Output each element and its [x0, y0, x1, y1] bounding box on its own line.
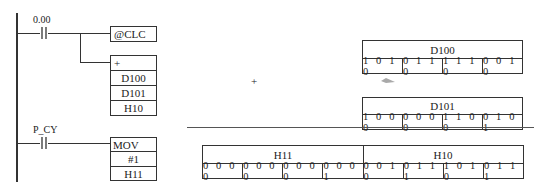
bit-nibble: 0 0 0 1 [323, 163, 363, 178]
sum-divider-line [187, 127, 534, 128]
add-operand-3[interactable]: H10 [110, 100, 157, 116]
rung1-branch-horizontal [80, 62, 110, 63]
contact-label-p-cy: P_CY [33, 124, 57, 135]
rung2-wire-right [48, 143, 110, 144]
bit-nibble: 1 0 1 0 [363, 58, 403, 73]
rung1-wire-left [17, 33, 40, 34]
no-contact-0-00-icon[interactable] [40, 27, 48, 39]
instruction-mov[interactable]: MOV [110, 137, 157, 152]
register-result-h11-h10: H11 H10 0 0 0 0 0 0 0 0 0 0 0 0 0 0 0 1 … [202, 145, 524, 179]
no-contact-p-cy-icon[interactable] [40, 137, 48, 149]
bit-nibble: 0 0 1 0 [483, 58, 522, 73]
mov-operand-source-label: #1 [128, 153, 139, 165]
mov-operand-source[interactable]: #1 [110, 151, 157, 167]
rung2-wire-left [17, 143, 40, 144]
add-operand-2-label: D101 [121, 87, 145, 99]
register-d101: D101 1 0 0 0 0 0 0 0 1 1 0 0 0 1 0 1 [362, 97, 523, 130]
register-result-bits: 0 0 0 0 0 0 0 0 0 0 0 0 0 0 0 1 0 0 1 0 … [203, 163, 523, 178]
add-operand-1-label: D100 [121, 72, 145, 84]
rung1-branch-vertical [80, 33, 81, 62]
bit-nibble: 1 0 1 0 [444, 163, 484, 178]
plus-sign: + [251, 75, 257, 87]
add-operand-2[interactable]: D101 [110, 85, 157, 101]
rung1-wire-right [48, 33, 110, 34]
add-operand-3-label: H10 [124, 102, 143, 114]
bit-nibble: 0 1 1 0 [403, 58, 443, 73]
arrow-mark-icon [381, 78, 395, 84]
bit-nibble: 1 1 1 0 [443, 58, 483, 73]
instruction-clc-label: @CLC [114, 28, 146, 40]
register-d100-bits: 1 0 1 0 0 1 1 0 1 1 1 0 0 0 1 0 [363, 58, 522, 73]
register-d100: D100 1 0 1 0 0 1 1 0 1 1 1 0 0 0 1 0 [362, 40, 523, 74]
bit-nibble: 0 1 1 1 [404, 163, 444, 178]
instruction-clc[interactable]: @CLC [110, 26, 157, 42]
add-operand-1[interactable]: D100 [110, 70, 157, 86]
bit-nibble: 0 0 0 0 [283, 163, 323, 178]
add-op-label: + [114, 57, 120, 69]
bit-nibble: 0 0 0 0 [203, 163, 243, 178]
instruction-add-op[interactable]: + [110, 55, 157, 71]
mov-label: MOV [113, 139, 139, 151]
contact-label-0-00: 0.00 [33, 14, 51, 25]
bit-nibble: 0 1 1 1 [484, 163, 523, 178]
mov-operand-dest[interactable]: H11 [110, 166, 157, 181]
mov-operand-dest-label: H11 [124, 168, 143, 180]
left-power-rail [16, 13, 18, 182]
bit-nibble: 0 0 0 0 [243, 163, 283, 178]
bit-nibble: 0 0 1 0 [364, 163, 404, 178]
